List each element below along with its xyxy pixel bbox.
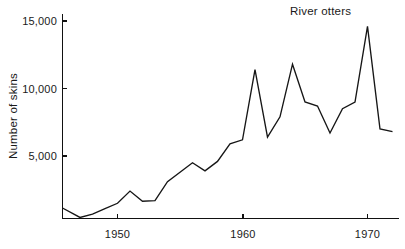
x-tick-label-1970: 1970: [355, 228, 380, 240]
y-tick-label-10000: 10,000: [22, 83, 57, 95]
chart-figure: 15,000 10,000 5,000 1950 1960 1970 Numbe…: [0, 0, 405, 249]
series-line-river-otters: [63, 26, 393, 217]
y-tick-label-15000: 15,000: [22, 15, 57, 27]
y-tick-label-5000: 5,000: [28, 150, 57, 162]
y-axis-title: Number of skins: [7, 73, 19, 159]
x-tick-label-1960: 1960: [230, 228, 255, 240]
line-chart: 15,000 10,000 5,000 1950 1960 1970 Numbe…: [0, 0, 405, 249]
x-tick-label-1950: 1950: [105, 228, 130, 240]
chart-title-river-otters: River otters: [290, 5, 351, 17]
